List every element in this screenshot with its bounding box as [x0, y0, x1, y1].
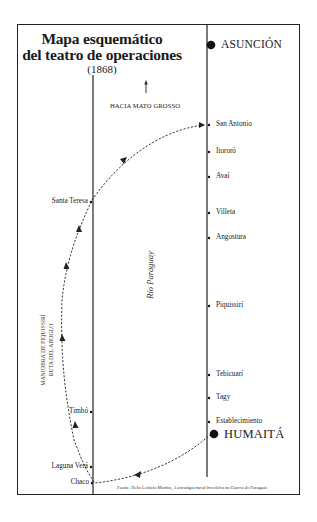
schematic-map	[0, 0, 317, 522]
place-santa-teresa: Santa Teresa	[52, 197, 88, 205]
source-work: A estratégia naval brasileira na Guerra …	[173, 485, 267, 490]
place-angostura: Angostura	[216, 233, 246, 241]
arrow-icon	[73, 421, 79, 428]
asuncion-marker	[207, 41, 216, 50]
north-label: HACIA MATO GROSSO	[110, 102, 180, 109]
title-line-2: del teatro de operaciones	[22, 47, 182, 63]
route-label: MANIOBRA DE PIQUISSIRÍ RUTA DEL ABOGLO	[39, 314, 55, 386]
source-author: Fuente: Helio Leôncio Martins,	[117, 485, 172, 490]
capital-asuncion: ASUNCIÓN	[221, 38, 282, 50]
route-label-line-1: MANIOBRA DE PIQUISSIRÍ	[39, 314, 47, 386]
place-piquissiri: Piquissirí	[216, 301, 243, 309]
place-itororo: Itororó	[216, 147, 236, 155]
route-arrows	[60, 122, 206, 478]
river-label: Río Paraguay	[145, 251, 155, 298]
place-villeta: Villeta	[216, 208, 235, 216]
source-citation: Fuente: Helio Leôncio Martins, A estraté…	[117, 485, 268, 490]
humaita-marker	[210, 430, 219, 439]
place-laguna-vera: Laguna Verá	[52, 462, 88, 470]
arrow-icon	[120, 157, 127, 164]
title-line-1: Mapa esquemático	[22, 31, 182, 47]
place-avai: Avaí	[216, 172, 229, 180]
route-label-line-2: RUTA DEL ABOGLO	[47, 314, 55, 386]
place-establecimiento: Establecimiento	[216, 417, 262, 425]
map-title: Mapa esquemático del teatro de operacion…	[22, 31, 182, 63]
place-san-antonio: San Antonio	[216, 120, 252, 128]
right-bank-markers	[208, 124, 210, 423]
arrow-icon	[76, 225, 82, 232]
capital-humaita: HUMAITÁ	[224, 427, 284, 442]
place-chaco: Chaco	[71, 478, 89, 486]
north-arrow-icon	[144, 80, 147, 93]
place-timbo: Timbó	[69, 407, 88, 415]
arrow-icon	[134, 471, 141, 478]
maneuver-route	[62, 125, 211, 483]
map-year: (1868)	[22, 63, 182, 75]
arrow-icon	[199, 122, 205, 128]
place-tagy: Tagy	[216, 393, 230, 401]
place-tebicuari: Tebicuarí	[216, 370, 243, 378]
arrow-icon	[60, 334, 66, 341]
